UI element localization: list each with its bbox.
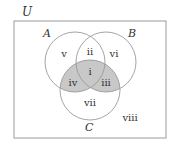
region-vii-label: vii bbox=[83, 97, 96, 108]
region-v-label: v bbox=[60, 48, 67, 59]
region-i-label: i bbox=[88, 66, 91, 77]
set-a-label: A bbox=[42, 27, 51, 40]
shaded-region bbox=[45, 32, 136, 92]
set-b-label: B bbox=[127, 27, 136, 40]
region-vi-label: vi bbox=[109, 48, 119, 59]
region-iii-label: iii bbox=[101, 77, 111, 88]
venn-diagram: U A B C i ii iii iv v vi vii viii bbox=[0, 0, 173, 145]
universe-label: U bbox=[22, 5, 33, 19]
region-viii-label: viii bbox=[121, 112, 137, 123]
region-ii-label: ii bbox=[87, 46, 93, 57]
set-c-label: C bbox=[85, 121, 94, 134]
region-iv-label: iv bbox=[69, 77, 78, 88]
